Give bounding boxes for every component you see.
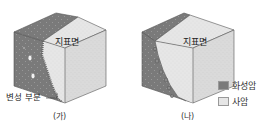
legend-label: 사암 (232, 95, 248, 108)
diagram-canvas (0, 0, 272, 135)
igneous-swatch (218, 81, 229, 90)
legend-item-igneous: 화성암 (218, 79, 256, 92)
legend-item-sandstone: 사암 (218, 95, 248, 108)
metamorphic-zone-label: 변성 부분 (6, 93, 41, 102)
legend-label: 화성암 (232, 79, 256, 92)
caption-na: (나) (181, 113, 194, 121)
caption-ga: (가) (53, 113, 66, 121)
surface-label-na: 지표면 (183, 38, 207, 47)
block-diagram-ga (14, 13, 106, 103)
surface-label-ga: 지표면 (55, 38, 79, 47)
sandstone-swatch (218, 97, 229, 106)
